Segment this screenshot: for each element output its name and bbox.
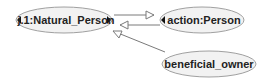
node-label: action:Person bbox=[167, 14, 241, 26]
arrowhead-icon bbox=[146, 11, 154, 19]
node-label: beneficial_owner bbox=[164, 58, 254, 70]
arrowhead-icon bbox=[113, 31, 122, 38]
node-label: j.1:Natural_Person bbox=[16, 14, 114, 26]
ontology-graph: j.1:Natural_Person action:Person benefic… bbox=[0, 0, 267, 81]
edges bbox=[113, 11, 165, 52]
node-natural-person[interactable]: j.1:Natural_Person bbox=[16, 7, 115, 33]
graph-svg: j.1:Natural_Person action:Person benefic… bbox=[0, 0, 267, 81]
node-action-person[interactable]: action:Person bbox=[160, 7, 244, 33]
arrowhead-icon bbox=[120, 21, 128, 29]
node-beneficial-owner[interactable]: beneficial_owner bbox=[162, 51, 256, 77]
